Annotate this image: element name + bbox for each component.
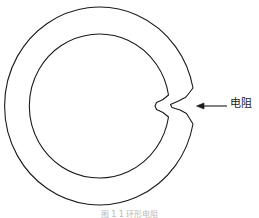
resistor-label: 电阻 <box>230 97 252 111</box>
figure-caption: 图 1 1 环形电阻 <box>0 210 259 218</box>
inner-bore-outline <box>29 34 168 178</box>
inner-bore-path <box>29 34 168 178</box>
ring-body-path <box>5 7 193 205</box>
split-ring-outline <box>5 7 193 205</box>
arrowhead <box>197 103 205 109</box>
figure-container: 电阻 图 1 1 环形电阻 <box>0 0 259 218</box>
ring-resistor-diagram <box>0 0 259 218</box>
leader-arrow-left <box>197 103 228 109</box>
